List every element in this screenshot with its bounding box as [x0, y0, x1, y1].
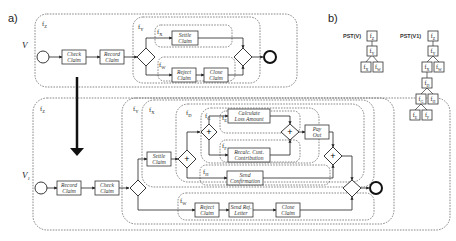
svg-text:Confirmation: Confirmation [230, 178, 260, 184]
svg-text:fW: fW [159, 61, 166, 70]
svg-text:+: + [206, 127, 211, 137]
task-check-claim-v1: Check Claim [95, 181, 119, 195]
model-v-label: V [22, 40, 29, 50]
task-settle-claim-v1: Settle Claim [147, 152, 171, 166]
pst-v1-node-h: fH [428, 94, 438, 104]
svg-text:fY: fY [138, 23, 144, 32]
pst-v1-title: PST(V1) [400, 33, 421, 39]
svg-text:Claim: Claim [67, 57, 81, 63]
panel-label-b: b) [328, 12, 338, 24]
svg-text:Claim: Claim [152, 159, 166, 165]
svg-text:fX: fX [157, 28, 163, 37]
svg-text:fY: fY [133, 105, 139, 114]
svg-text:fZ: fZ [40, 105, 45, 114]
svg-text:fD: fD [186, 109, 192, 118]
task-close-claim-v: Close Claim [204, 68, 228, 82]
svg-text:Letter: Letter [233, 210, 248, 216]
svg-text:Contribution: Contribution [235, 155, 264, 161]
svg-text:Claim: Claim [178, 38, 192, 44]
svg-text:Claim: Claim [281, 210, 295, 216]
svg-text:Claim: Claim [100, 188, 114, 194]
svg-text:Claim: Claim [200, 210, 214, 216]
svg-text:Loss Amount: Loss Amount [234, 116, 264, 122]
pst-v-title: PST(V) [343, 33, 361, 39]
and-split-gateway-1: + [178, 150, 196, 168]
xor-split-gateway-v [137, 48, 155, 66]
task-close-claim-v1: Close Claim [276, 203, 300, 217]
pst-v1-node-x: fX [422, 62, 432, 72]
panel-label-a: a) [8, 12, 18, 24]
pst-v1-node-d: fD [422, 78, 432, 88]
start-event-v1 [35, 182, 47, 194]
model-v1-label: V1 [22, 170, 30, 181]
and-split-gateway-2: + [201, 124, 217, 140]
xor-join-gateway-v1 [343, 180, 361, 197]
pst-v-node-y: fY [367, 46, 377, 56]
and-join-gateway-1: + [281, 124, 299, 140]
task-record-claim-v1: Record Claim [57, 181, 81, 195]
task-pay-out: Pay Out [305, 125, 329, 139]
svg-text:fF: fF [222, 142, 227, 151]
svg-text:Claim: Claim [177, 75, 191, 81]
task-record-claim-v: Record Claim [100, 50, 124, 64]
task-reject-claim-v: Reject Claim [172, 68, 196, 82]
xor-split-gateway-v1 [130, 180, 146, 196]
task-send-confirmation: Send Confirmation [227, 171, 263, 185]
svg-text:Claim: Claim [62, 188, 76, 194]
pst-v1-tree: fZ fY fX fW fD fG fH fE fF [410, 31, 444, 120]
pst-v-node-x: fX [361, 62, 371, 72]
transformation-arrow [70, 77, 84, 156]
svg-text:Out: Out [313, 132, 322, 138]
process-diagram: a) b) V fZ fY fX fW Check Claim Record C… [0, 0, 456, 241]
start-event-v [37, 51, 49, 63]
task-check-claim-v: Check Claim [62, 50, 86, 64]
svg-text:+: + [184, 154, 189, 164]
task-send-rej-letter: Send Rej. Letter [229, 203, 253, 217]
pst-v-node-w: fW [373, 62, 383, 72]
xor-join-gateway-v [234, 48, 252, 66]
pst-v1-node-g: fG [416, 94, 426, 104]
pst-v1-node-y: fY [428, 46, 438, 56]
end-event-v [264, 51, 276, 63]
svg-text:fE: fE [222, 114, 227, 123]
svg-text:Claim: Claim [105, 57, 119, 63]
svg-text:+: + [330, 151, 335, 161]
pst-v1-node-z: fZ [428, 31, 438, 41]
end-event-v1 [370, 182, 382, 194]
and-join-gateway-2: + [324, 147, 342, 165]
svg-text:fZ: fZ [42, 20, 47, 29]
task-reject-claim-v1: Reject Claim [195, 203, 219, 217]
svg-text:fW: fW [180, 197, 187, 206]
svg-text:fX: fX [149, 106, 155, 115]
svg-text:+: + [287, 127, 292, 137]
pst-v1-node-e: fE [410, 110, 420, 120]
svg-text:Claim: Claim [209, 75, 223, 81]
task-recalc-cust-contribution: Recalc. Cust. Contribution [228, 148, 270, 162]
pst-v-tree: fZ fY fX fW [361, 31, 383, 72]
task-settle-claim-v: Settle Claim [172, 31, 198, 45]
pst-v1-node-w: fW [434, 62, 444, 72]
task-calculate-loss-amount: Calculate Loss Amount [228, 109, 270, 123]
pst-v-node-z: fZ [367, 31, 377, 41]
pst-v1-node-f: fF [422, 110, 432, 120]
svg-text:fH: fH [203, 168, 209, 177]
